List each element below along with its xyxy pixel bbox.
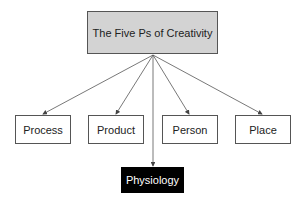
node-label: Product [97, 124, 135, 136]
node-product: Product [88, 115, 144, 144]
node-place: Place [235, 115, 291, 144]
node-process: Process [15, 115, 71, 144]
node-physiology: Physiology [121, 167, 184, 193]
node-label: Process [23, 124, 63, 136]
root-node: The Five Ps of Creativity [87, 11, 218, 54]
root-label: The Five Ps of Creativity [93, 27, 213, 39]
arrow-to-process [43, 55, 153, 114]
node-label: Place [249, 124, 277, 136]
node-label: Person [173, 124, 208, 136]
node-label: Physiology [126, 174, 179, 186]
arrow-to-place [153, 55, 262, 114]
arrow-to-person [153, 55, 189, 114]
node-person: Person [162, 115, 218, 144]
arrow-to-product [116, 55, 153, 114]
